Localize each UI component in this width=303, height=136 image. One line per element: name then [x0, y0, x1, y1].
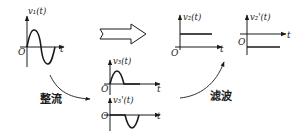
graph-label: v₁(t) — [28, 6, 46, 16]
diagram-canvas: v₁(t) O t 整流 v₃(t) O t v₃'(t) O t 滤波 — [0, 0, 303, 136]
time-label: t — [220, 44, 224, 54]
graph-v1: v₁(t) O t — [18, 6, 64, 67]
time-label: t — [157, 84, 161, 94]
rectify-step: 整流 — [39, 75, 90, 106]
origin-label: O — [101, 111, 109, 121]
graph-v2-prime: v₂'(t) O t — [238, 12, 291, 55]
origin-label: O — [171, 48, 179, 58]
time-label: t — [157, 111, 161, 121]
filter-label: 滤波 — [210, 89, 233, 103]
time-label: t — [60, 44, 64, 54]
half-wave — [110, 71, 140, 84]
graph-v2: v₂(t) O t — [171, 12, 224, 58]
half-wave — [110, 115, 139, 128]
origin-label: O — [238, 37, 246, 47]
rectify-label: 整流 — [39, 92, 62, 106]
time-label: t — [287, 30, 291, 40]
filter-step: 滤波 — [180, 62, 233, 103]
graph-label: v₃'(t) — [113, 95, 134, 105]
origin-label: O — [101, 84, 109, 94]
origin-label: O — [18, 47, 26, 57]
graph-label: v₃(t) — [113, 56, 131, 66]
graph-v3-prime: v₃'(t) O t — [101, 95, 161, 131]
block-arrow-icon — [100, 24, 146, 44]
graph-label: v₂'(t) — [250, 12, 271, 22]
graph-v3: v₃(t) O t — [101, 56, 161, 95]
graph-label: v₂(t) — [183, 12, 201, 22]
